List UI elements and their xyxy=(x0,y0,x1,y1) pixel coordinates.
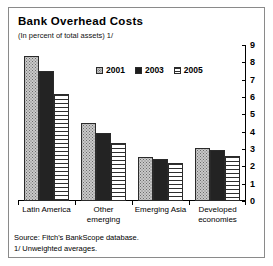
legend-label-2001: 2001 xyxy=(106,65,125,75)
y-axis-tick-label: 5 xyxy=(250,109,264,119)
bar-2003 xyxy=(153,159,168,201)
legend-swatch-2001-icon xyxy=(96,67,103,74)
category-label-line: Emerging Asia xyxy=(132,205,189,215)
x-axis-category-labels: Latin AmericaOtheremergingEmerging AsiaD… xyxy=(18,205,246,225)
y-axis-tick xyxy=(242,97,246,98)
y-axis-tick-label: 9 xyxy=(250,40,264,50)
y-axis-tick-label: 7 xyxy=(250,75,264,85)
category-label-line: emerging xyxy=(75,215,132,225)
y-axis-tick xyxy=(242,166,246,167)
bar-group xyxy=(18,45,75,201)
category-label-2: Emerging Asia xyxy=(132,205,189,225)
category-label-3: Developedeconomies xyxy=(189,205,246,225)
y-axis-tick-label: 0 xyxy=(250,196,264,206)
y-axis-tick xyxy=(242,114,246,115)
figure-footnotes: Source: Fitch's BankScope database. 1/ U… xyxy=(14,232,139,254)
chart-figure: Bank Overhead Costs (In percent of total… xyxy=(0,0,273,266)
y-axis-tick-label: 6 xyxy=(250,92,264,102)
y-axis-tick xyxy=(242,132,246,133)
legend-label-2005: 2005 xyxy=(184,65,203,75)
legend-item-2005: 2005 xyxy=(174,65,203,75)
bar-2005 xyxy=(111,143,126,201)
legend-swatch-2005-icon xyxy=(174,67,181,74)
legend-swatch-2003-icon xyxy=(135,67,142,74)
bar-2003 xyxy=(210,150,225,201)
y-axis-tick xyxy=(242,201,246,202)
bar-2005 xyxy=(225,156,240,201)
note-line: 1/ Unweighted averages. xyxy=(14,243,139,254)
y-axis-tick-label: 4 xyxy=(250,127,264,137)
legend-label-2003: 2003 xyxy=(145,65,164,75)
source-line: Source: Fitch's BankScope database. xyxy=(14,232,139,243)
y-axis-tick-label: 8 xyxy=(250,57,264,67)
y-axis-tick xyxy=(242,149,246,150)
bar-2003 xyxy=(96,133,111,201)
bar-2005 xyxy=(54,94,69,201)
category-label-0: Latin America xyxy=(18,205,75,225)
chart-legend: 2001 2003 2005 xyxy=(96,65,203,75)
y-axis-tick-label: 3 xyxy=(250,144,264,154)
y-axis-tick xyxy=(242,184,246,185)
bar-2001 xyxy=(81,123,96,201)
bar-2001 xyxy=(138,157,153,201)
category-label-line: Developed xyxy=(189,205,246,215)
category-label-line: Latin America xyxy=(18,205,75,215)
chart-subtitle: (In percent of total assets) 1/ xyxy=(18,31,113,40)
y-axis-tick xyxy=(242,45,246,46)
category-label-1: Otheremerging xyxy=(75,205,132,225)
y-axis-tick xyxy=(242,80,246,81)
bar-2001 xyxy=(195,148,210,201)
legend-item-2003: 2003 xyxy=(135,65,164,75)
y-axis-tick xyxy=(242,62,246,63)
category-label-line: Other xyxy=(75,205,132,215)
bar-2005 xyxy=(168,163,183,201)
bar-2001 xyxy=(24,56,39,201)
category-label-line: economies xyxy=(189,215,246,225)
y-axis-tick-label: 1 xyxy=(250,179,264,189)
y-axis-tick-label: 2 xyxy=(250,161,264,171)
chart-title: Bank Overhead Costs xyxy=(18,15,143,27)
bar-2003 xyxy=(39,71,54,201)
legend-item-2001: 2001 xyxy=(96,65,125,75)
